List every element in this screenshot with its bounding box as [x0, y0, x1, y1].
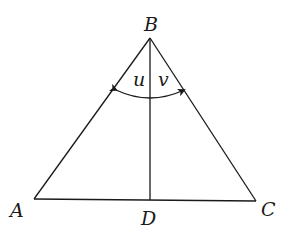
- label-angle-v: v: [158, 68, 169, 90]
- triangle-diagram: B A C D u v: [0, 0, 297, 237]
- side-bc: [150, 38, 256, 201]
- side-ab: [34, 38, 150, 199]
- label-a: A: [8, 199, 24, 221]
- side-ac: [34, 199, 256, 201]
- label-d: D: [140, 207, 156, 229]
- label-c: C: [261, 198, 276, 220]
- label-angle-u: u: [133, 68, 145, 90]
- label-b: B: [143, 13, 158, 35]
